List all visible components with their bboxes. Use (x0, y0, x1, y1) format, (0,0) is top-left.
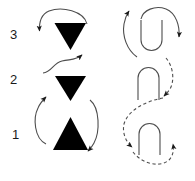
arch-shape-row2 (138, 68, 159, 101)
arrow-row3-left-up (124, 11, 137, 57)
right-column-group (123, 8, 179, 165)
arch-shape-row1 (139, 124, 160, 156)
arrow-row3-right-down (141, 8, 179, 37)
arrow-row2-s-curve (43, 55, 82, 73)
row-label-3: 3 (10, 28, 17, 41)
left-column-group (35, 9, 98, 151)
u-shape-row3 (141, 20, 162, 50)
arrow-row1-right-down (88, 100, 98, 151)
diagram-canvas (0, 0, 195, 181)
triangle-up-row1 (53, 117, 88, 150)
arrow-row1-left-up (35, 97, 46, 144)
triangle-down-row3 (55, 23, 87, 50)
row-label-2: 2 (10, 73, 17, 86)
diagram-figure: 3 2 1 (0, 0, 195, 181)
arrow-row1-dashed-left (123, 98, 163, 147)
arrow-row2-dashed-down (164, 58, 173, 96)
row-label-1: 1 (12, 128, 19, 141)
triangle-down-row2 (55, 76, 86, 101)
